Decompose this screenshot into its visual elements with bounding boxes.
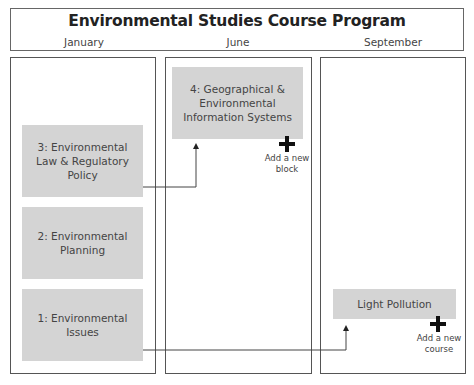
arrow-head-icon <box>193 143 199 149</box>
connector-3-to-4 <box>143 146 196 187</box>
connector-1-to-light-pollution <box>143 328 346 350</box>
connector-lines <box>0 0 474 385</box>
arrow-head-icon <box>343 325 349 331</box>
